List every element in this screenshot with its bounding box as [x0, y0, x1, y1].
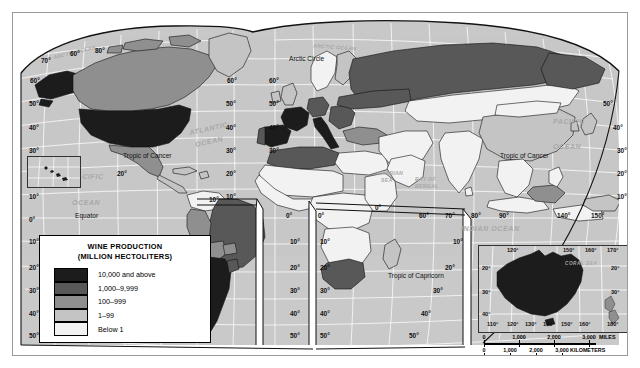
ocean-label: OCEAN: [72, 199, 100, 206]
legend-title-line2: (MILLION HECTOLITERS): [40, 252, 210, 262]
latitude-label: 30°: [320, 288, 330, 295]
inset-latitude-label: 20°: [611, 266, 619, 272]
latitude-label: 50°: [320, 333, 330, 340]
legend-label: 1–99: [98, 311, 114, 320]
legend-label: 100–999: [98, 297, 126, 306]
latitude-label: 70°: [41, 58, 51, 65]
inset-latitude-label: 20°: [482, 266, 490, 272]
inset-latitude-label: 30°: [482, 290, 490, 296]
ocean-label: BAY OF: [415, 177, 436, 182]
arctic-circle-label: Arctic Circle: [289, 56, 324, 63]
inset-longitude-label: 140°: [543, 322, 555, 328]
inset-longitude-label: 110°: [487, 322, 498, 328]
ocean-label: BENGAL: [415, 184, 439, 189]
latitude-label: 30°: [29, 288, 39, 295]
latitude-label: 50°: [29, 333, 39, 340]
tropic-of-cancer-label: Tropic of Cancer: [500, 153, 549, 160]
latitude-label: 20°: [117, 171, 127, 178]
ocean-label: SEA: [381, 178, 393, 183]
legend-swatch: [54, 282, 88, 296]
legend-row: 1–99: [54, 309, 210, 323]
ocean-label: PACIFIC: [553, 118, 585, 125]
legend-swatch: [54, 322, 88, 336]
latitude-label: 10°: [29, 194, 39, 201]
latitude-label: 50°: [269, 101, 279, 108]
legend-row: Below 1: [54, 322, 210, 336]
longitude-label: 10°: [209, 197, 219, 204]
latitude-label: 10°: [320, 239, 330, 246]
scale-value: 1,000: [512, 334, 526, 340]
latitude-label: 20°: [290, 265, 300, 272]
ocean-label: INDIAN OCEAN: [461, 225, 520, 232]
australia-inset-map[interactable]: 120°150°160°170°110°120°130°140°150°160°…: [478, 245, 627, 333]
latitude-label: 50°: [603, 101, 613, 108]
longitude-label: 140°: [557, 213, 570, 220]
inset-latitude-label: 30°: [611, 290, 619, 296]
legend-row: 10,000 and above: [54, 268, 210, 282]
latitude-label: 10°: [617, 194, 627, 201]
scale-tick: [484, 340, 485, 347]
inset-longitude-label: 160°: [579, 322, 591, 328]
latitude-label: 30°: [617, 148, 627, 155]
legend-row: 100–999: [54, 295, 210, 309]
latitude-label: 40°: [269, 125, 279, 132]
longitude-label: 80°: [471, 213, 481, 220]
inset-longitude-label: 170°: [607, 248, 619, 254]
scale-value: 1,000: [503, 347, 517, 353]
scale-tick: [519, 340, 520, 347]
latitude-label: 0°: [318, 213, 324, 220]
legend-label: 10,000 and above: [98, 270, 156, 279]
scale-value: 0: [483, 334, 486, 340]
latitude-label: 40°: [29, 125, 39, 132]
latitude-label: 40°: [613, 125, 623, 132]
latitude-label: 30°: [226, 148, 236, 155]
latitude-label: 20°: [29, 265, 39, 272]
legend-title-line1: WINE PRODUCTION: [40, 242, 210, 252]
latitude-label: 10°: [453, 239, 463, 246]
longitude-label: 70°: [445, 213, 455, 220]
latitude-label: 50°: [290, 333, 300, 340]
latitude-label: 30°: [433, 288, 443, 295]
screenshot-root: ARCTIC OCEAN ARCTIC OCEAN ATLANTIC OCEAN…: [0, 0, 640, 368]
latitude-label: 60°: [30, 78, 40, 85]
inset-longitude-label: 120°: [507, 248, 519, 254]
legend-label: Below 1: [98, 325, 124, 334]
scale-value: 2,000: [547, 334, 561, 340]
scale-value: 3,000: [555, 347, 569, 353]
legend-swatch: [54, 295, 88, 309]
latitude-label: 50°: [226, 101, 236, 108]
latitude-label: 0°: [286, 213, 292, 220]
latitude-label: 50°: [29, 101, 39, 108]
longitude-label: 150°: [591, 213, 604, 220]
scale-line-miles: [484, 343, 596, 345]
latitude-label: 10°: [290, 239, 300, 246]
legend-row: 1,000–9,999: [54, 282, 210, 296]
inset-longitude-label: 160°: [585, 248, 597, 254]
longitude-label: 0°: [375, 205, 381, 212]
tropic-of-cancer-label: Tropic of Cancer: [123, 153, 172, 160]
scale-unit-km: KILOMETERS: [570, 347, 605, 353]
longitude-label: 90°: [499, 213, 509, 220]
scale-value: 0: [483, 347, 486, 353]
inset-longitude-label: 180°: [607, 322, 619, 328]
map-canvas: ARCTIC OCEAN ARCTIC OCEAN ATLANTIC OCEAN…: [13, 13, 627, 355]
inset-longitude-label: 150°: [561, 322, 573, 328]
scale-tick: [589, 340, 590, 347]
latitude-label: 30°: [290, 288, 300, 295]
ocean-label: ARABIAN: [377, 171, 403, 176]
scale-tick: [484, 353, 485, 355]
legend-swatch: [54, 309, 88, 323]
tropic-of-capricorn-label: Tropic of Capricorn: [388, 273, 444, 280]
legend-rows: 10,000 and above1,000–9,999100–9991–99Be…: [54, 268, 210, 336]
scale-bar-kilometers: 0 1,000 2,000 3,000 KILOMETERS: [478, 348, 627, 355]
latitude-label: 40°: [421, 311, 431, 318]
latitude-label: 40°: [290, 311, 300, 318]
australia-inset-graphic: [479, 246, 627, 332]
latitude-label: 40°: [320, 311, 330, 318]
latitude-label: 60°: [227, 78, 237, 85]
latitude-label: 50°: [409, 333, 419, 340]
hawaii-inset-map[interactable]: [27, 156, 81, 188]
latitude-label: 60°: [70, 51, 80, 58]
legend-swatch: [54, 268, 88, 282]
latitude-label: 0°: [29, 217, 35, 224]
